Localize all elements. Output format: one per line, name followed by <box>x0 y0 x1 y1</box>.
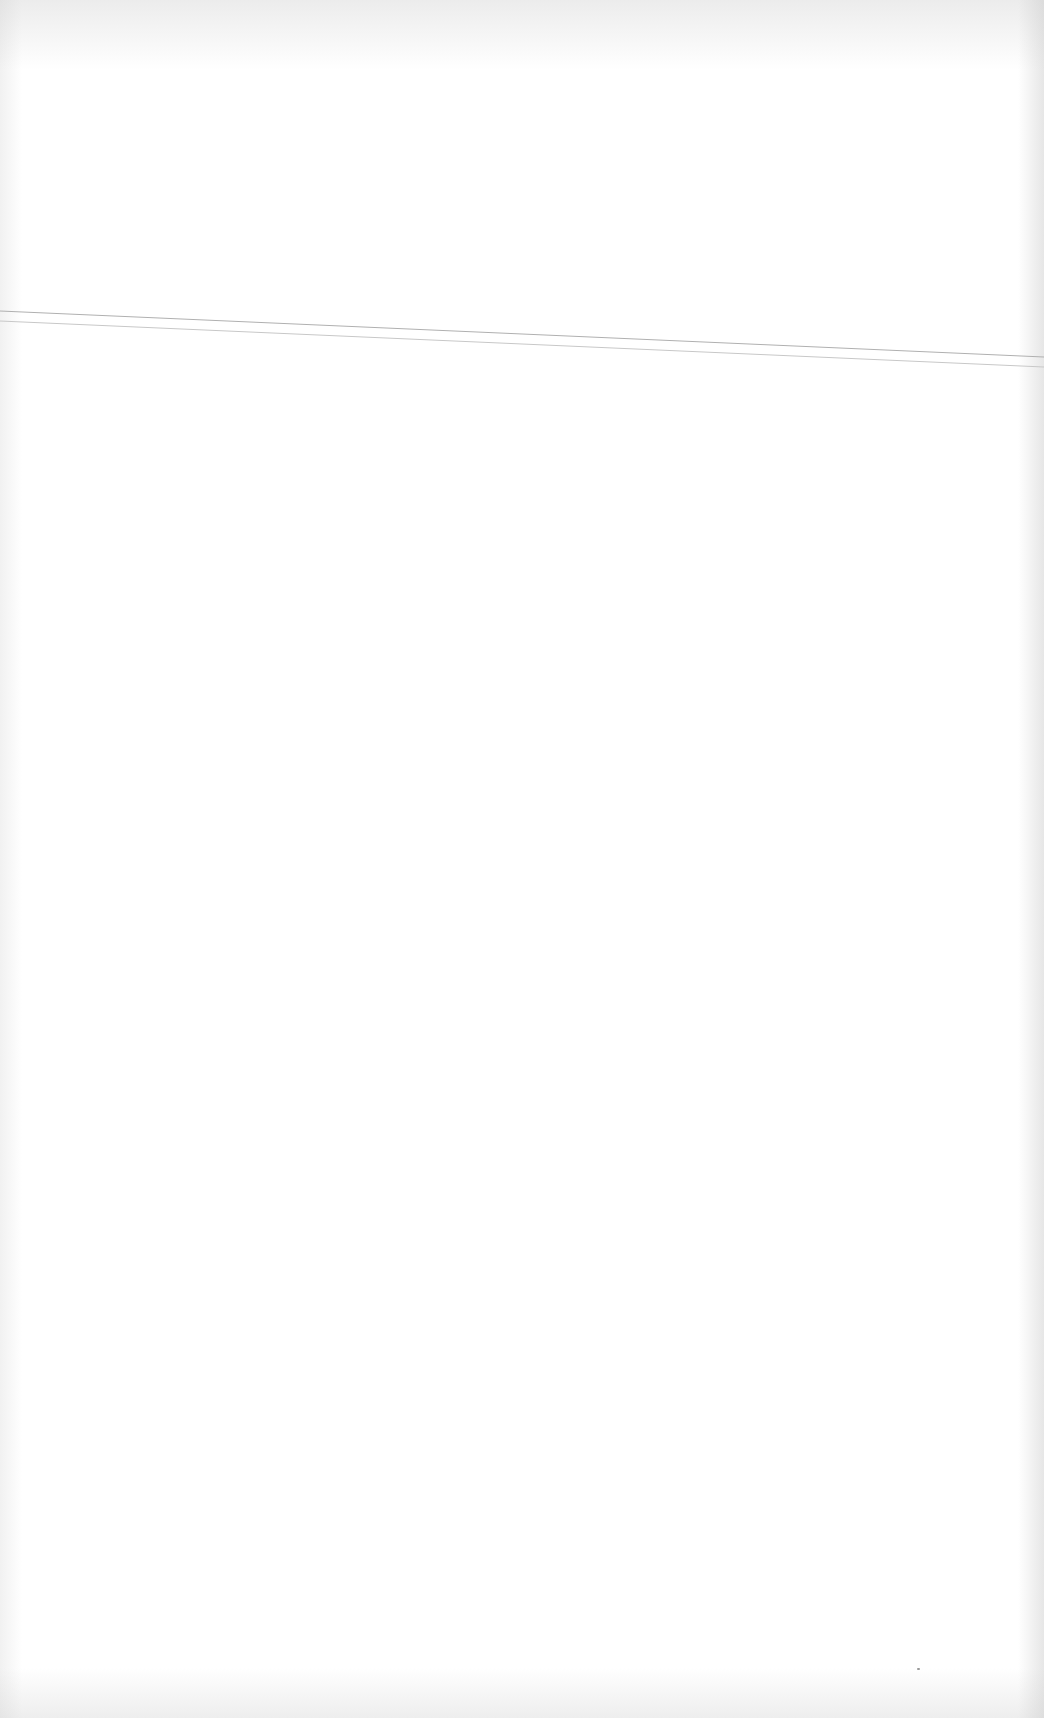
scan-speck <box>917 1668 920 1670</box>
rule-line-upper <box>0 311 1044 357</box>
blank-scanned-page <box>0 0 1044 1718</box>
rule-line-lower <box>0 321 1044 367</box>
rule-lines <box>0 0 1044 1718</box>
